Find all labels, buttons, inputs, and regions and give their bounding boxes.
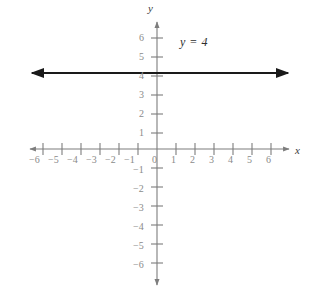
x-tick-label: 1 bbox=[171, 155, 176, 165]
x-tick-label: −4 bbox=[67, 155, 78, 165]
origin-label: 0 bbox=[152, 155, 157, 165]
equation-annotation: y = 4 bbox=[180, 36, 208, 48]
coordinate-plane: y x y = 4 −6−5−4−3−2−1123456 654321−1−2−… bbox=[0, 0, 311, 294]
y-tick-label: −1 bbox=[133, 165, 144, 175]
y-axis-label: y bbox=[148, 3, 153, 14]
y-tick-label: −6 bbox=[133, 260, 144, 270]
x-tick-label: −2 bbox=[105, 155, 116, 165]
axes-svg bbox=[0, 0, 311, 294]
x-tick-label: −6 bbox=[29, 155, 40, 165]
x-tick-label: 5 bbox=[247, 155, 252, 165]
y-tick-label: 4 bbox=[139, 71, 144, 81]
x-tick-label: 4 bbox=[228, 155, 233, 165]
x-tick-label: 2 bbox=[190, 155, 195, 165]
y-tick-label: 5 bbox=[139, 52, 144, 62]
y-tick-label: −5 bbox=[133, 241, 144, 251]
x-tick-label: −5 bbox=[48, 155, 59, 165]
x-tick-label: 3 bbox=[209, 155, 214, 165]
y-tick-label: −4 bbox=[133, 222, 144, 232]
x-axis-label: x bbox=[295, 145, 300, 156]
y-tick-label: −3 bbox=[133, 203, 144, 213]
y-tick-label: 1 bbox=[139, 128, 144, 138]
y-tick-label: −2 bbox=[133, 184, 144, 194]
y-tick-label: 6 bbox=[139, 33, 144, 43]
x-tick-label: 6 bbox=[266, 155, 271, 165]
y-tick-label: 3 bbox=[139, 90, 144, 100]
x-tick-label: −3 bbox=[86, 155, 97, 165]
y-tick-label: 2 bbox=[139, 109, 144, 119]
graph-figure: y x y = 4 −6−5−4−3−2−1123456 654321−1−2−… bbox=[0, 0, 311, 294]
